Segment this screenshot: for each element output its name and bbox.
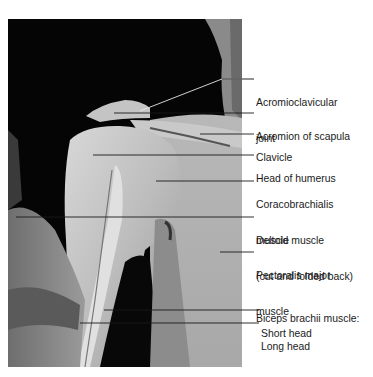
label-line: Coracobrachialis bbox=[256, 199, 333, 211]
label-line: Pectoralis major bbox=[256, 270, 331, 282]
shoulder-anatomy-figure: Acromioclavicular joint Acromion of scap… bbox=[0, 0, 373, 377]
label-long-head: Long head bbox=[261, 317, 310, 377]
label-line: Long head bbox=[261, 341, 310, 353]
